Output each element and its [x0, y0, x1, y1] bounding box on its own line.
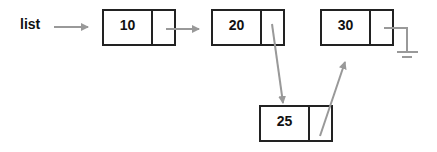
null-ground-icon [384, 28, 418, 57]
arrow-20-to-25 [272, 24, 283, 103]
arrow-25-to-30 [320, 62, 345, 136]
pointer-arrows [0, 0, 437, 152]
